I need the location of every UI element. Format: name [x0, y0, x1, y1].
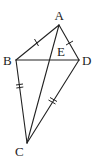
label-d: D — [82, 53, 91, 68]
double-tick-mark-bc-2 — [16, 87, 23, 88]
kite-diagram: A B D C E — [0, 0, 98, 161]
diagonal-ac — [27, 25, 59, 143]
label-c: C — [15, 144, 24, 159]
label-b: B — [3, 53, 12, 68]
segment-ab — [16, 25, 59, 60]
double-tick-mark-bc-1 — [16, 84, 23, 85]
label-a: A — [55, 8, 65, 23]
segment-dc — [27, 60, 79, 143]
segment-bc — [16, 60, 27, 143]
label-e: E — [57, 44, 65, 59]
